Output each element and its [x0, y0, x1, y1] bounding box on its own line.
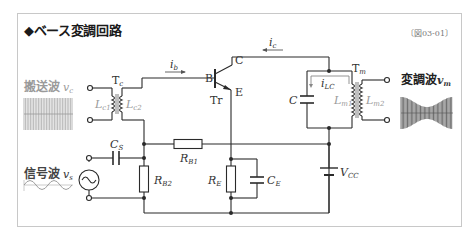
coil-lm2	[360, 84, 363, 116]
diagram-stage: ◆ベース変調回路 〔図03-01〕	[0, 0, 473, 239]
cs-label: CS	[110, 138, 123, 152]
signal-wave-label: 信号波	[24, 166, 61, 181]
modulated-terminal-bottom	[385, 118, 390, 123]
resistor-rb2	[140, 166, 149, 192]
ic-label: ic	[269, 36, 277, 50]
rb1-label: RB1	[179, 152, 198, 166]
vcc-label: VCC	[340, 166, 359, 180]
ce-label: CE	[267, 174, 281, 188]
collector-label: C	[235, 54, 243, 67]
signal-waveform	[24, 180, 73, 191]
coil-lc1	[112, 96, 115, 112]
transistor-label: Tr	[210, 94, 223, 107]
svg-text:vc: vc	[63, 81, 73, 95]
ib-label: ib	[170, 58, 179, 72]
carrier-terminal-top	[88, 86, 93, 91]
signal-terminal-bottom	[87, 196, 92, 201]
lc1-label: Lc1	[94, 98, 111, 112]
resistor-re	[227, 166, 236, 192]
circuit-diagram: 搬送波 vc 信号波 vs 変調波 vm Tc Lc1 Lc2 B C E Tr…	[0, 0, 473, 239]
modulated-terminal-top	[385, 78, 390, 83]
base-label: B	[205, 72, 213, 85]
tm-label: Tm	[352, 62, 366, 76]
tc-label: Tc	[112, 74, 123, 88]
signal-terminal-top	[87, 156, 92, 161]
re-label: RE	[207, 174, 221, 188]
emitter-arrow-icon	[223, 85, 231, 90]
emitter-label: E	[235, 86, 243, 99]
tank-capacitor-label: C	[289, 94, 298, 107]
lc2-label: Lc2	[125, 98, 142, 112]
modulated-wave-label: 変調波	[401, 72, 438, 87]
lm2-label: Lm2	[365, 94, 385, 108]
carrier-wave-label: 搬送波	[24, 79, 61, 94]
lm1-label: Lm1	[333, 94, 352, 108]
resistor-rb1	[174, 140, 202, 149]
ilc-label: iLC	[321, 77, 335, 91]
carrier-terminal-bottom	[88, 118, 93, 123]
rb2-label: RB2	[153, 174, 172, 188]
coil-lc2	[120, 96, 123, 112]
transistor-collector-lead	[215, 65, 232, 74]
svg-text:vs: vs	[63, 168, 73, 182]
svg-text:vm: vm	[437, 74, 451, 88]
